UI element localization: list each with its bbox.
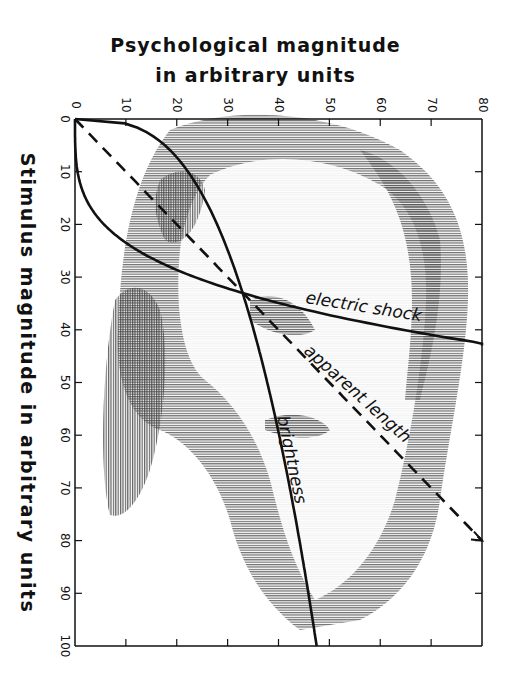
left-tick-label: 50 (58, 375, 72, 390)
left-tick-label: 80 (58, 533, 72, 548)
left-tick-label: 0 (58, 115, 72, 123)
left-tick-label: 30 (58, 269, 72, 284)
top-tick-label: 0 (69, 101, 83, 109)
portrait-shadow (103, 288, 165, 516)
left-tick-label: 100 (58, 635, 72, 658)
left-tick-label: 60 (58, 428, 72, 443)
left-tick-label: 20 (58, 217, 72, 232)
top-tick-label: 40 (272, 97, 286, 112)
top-tick-label: 60 (374, 97, 388, 112)
left-tick-label: 10 (58, 164, 72, 179)
top-tick-label: 50 (323, 97, 337, 112)
top-tick-label: 10 (119, 97, 133, 112)
left-tick-label: 40 (58, 322, 72, 337)
top-tick-label: 20 (170, 97, 184, 112)
left-tick-label: 90 (58, 586, 72, 601)
left-tick-label: 70 (58, 480, 72, 495)
top-tick-label: 70 (425, 97, 439, 112)
chart-plot: 010203040506070800102030405060708090100 … (0, 0, 511, 697)
top-tick-label: 80 (476, 97, 490, 112)
halftone-portrait (103, 115, 468, 630)
arrowhead-icon (471, 532, 482, 541)
top-tick-label: 30 (221, 97, 235, 112)
